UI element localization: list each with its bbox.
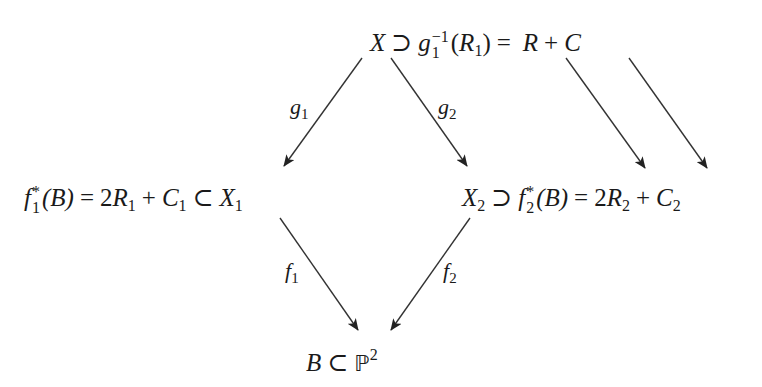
node-bottom: B⊂ℙ2 [306,347,378,375]
paren-close: ) [482,29,490,56]
f-superscript: * [526,184,534,200]
coefficient: 2 [100,184,113,211]
g-supsub: −11 [432,29,449,61]
symbol-B: (B) [536,184,568,211]
arrow-R-to-R2 [566,58,645,168]
projective-plane-symbol: ℙ [354,351,369,376]
node-right: X2⊃f*2(B)=2R2+C2 [462,184,681,216]
plus-symbol: + [142,184,156,211]
node-top: X⊃g−11(R1)=R+C [370,29,581,61]
equals-symbol: = [574,184,588,211]
arrow-C-to-C2 [629,58,707,168]
symbol-R: R [523,29,538,56]
C-subscript: 1 [179,197,187,214]
symbol-C: C [564,29,581,56]
symbol-C: C [162,184,179,211]
symbol-f: f [24,184,31,211]
symbol-X: X [220,184,235,211]
subset-symbol: ⊂ [327,349,348,376]
label-f1: f1 [285,260,299,286]
equals-symbol: = [80,184,94,211]
coefficient: 2 [594,184,607,211]
g-subscript: 1 [432,45,449,61]
symbol-f: f [518,184,525,211]
label-g2-subscript: 2 [449,106,457,122]
P-superscript: 2 [370,346,378,363]
symbol-R: R [112,184,127,211]
X-subscript: 2 [477,197,485,214]
symbol-X: X [370,29,385,56]
X-subscript: 1 [235,197,243,214]
symbol-X: X [462,184,477,211]
label-f2: f2 [443,260,457,286]
f-subscript: 2 [526,200,534,216]
C-subscript: 2 [673,197,681,214]
label-g1: g1 [290,96,309,122]
paren-open: ( [451,29,459,56]
g-superscript: −1 [432,29,449,45]
symbol-R: R [607,184,622,211]
symbol-C: C [656,184,673,211]
symbol-R1: R [459,29,474,56]
label-g2: g2 [438,96,457,122]
arrow-f2 [391,218,470,330]
f-subscript: 1 [32,200,40,216]
label-f2-subscript: 2 [449,270,457,286]
label-g2-symbol: g [438,94,449,119]
f-supsub: *1 [32,184,40,216]
label-f1-subscript: 1 [291,270,299,286]
label-g1-subscript: 1 [301,106,309,122]
R-subscript: 2 [622,197,630,214]
equals-symbol: = [497,29,511,56]
f-supsub: *2 [526,184,534,216]
symbol-g: g [418,29,431,56]
supset-symbol: ⊃ [491,184,512,211]
subset-symbol: ⊂ [193,184,214,211]
node-left: f*1(B)=2R1+C1⊂X1 [24,184,243,216]
plus-symbol: + [544,29,558,56]
label-g1-symbol: g [290,94,301,119]
R-subscript: 1 [128,197,136,214]
f-superscript: * [32,184,40,200]
supset-symbol: ⊃ [391,29,412,56]
symbol-B: (B) [42,184,74,211]
plus-symbol: + [636,184,650,211]
symbol-B: B [306,349,321,376]
